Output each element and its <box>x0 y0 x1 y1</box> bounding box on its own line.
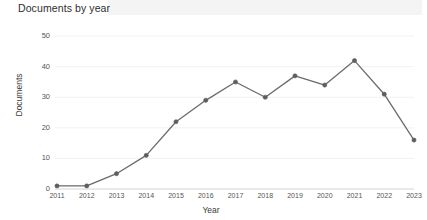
data-point[interactable] <box>144 153 148 157</box>
data-point[interactable] <box>382 92 386 96</box>
data-point[interactable] <box>204 98 208 102</box>
series-markers <box>55 58 416 188</box>
data-point[interactable] <box>293 74 297 78</box>
data-point[interactable] <box>114 172 118 176</box>
gridlines <box>55 36 414 189</box>
data-point[interactable] <box>323 83 327 87</box>
data-point[interactable] <box>233 80 237 84</box>
data-point[interactable] <box>352 58 356 62</box>
series-line-documents <box>57 61 414 186</box>
data-point[interactable] <box>263 95 267 99</box>
data-point[interactable] <box>85 184 89 188</box>
data-point[interactable] <box>174 120 178 124</box>
data-point[interactable] <box>412 138 416 142</box>
data-point[interactable] <box>55 184 59 188</box>
